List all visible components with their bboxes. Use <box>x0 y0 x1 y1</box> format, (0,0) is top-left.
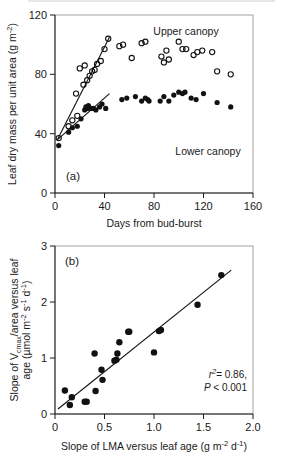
data-point <box>171 93 176 98</box>
data-point <box>164 48 169 53</box>
y-tick-label-0: 0 <box>41 408 47 420</box>
x-tick-label-160: 160 <box>244 200 262 212</box>
data-point <box>103 106 108 111</box>
data-point <box>70 125 75 130</box>
data-point <box>166 57 171 62</box>
data-point <box>218 272 224 278</box>
data-point <box>113 356 119 362</box>
y-axis-title-line2: age (µmol m-2 s-1 d-1) <box>19 280 32 379</box>
data-point <box>124 95 129 100</box>
stat-p-value: P < 0.001 <box>204 382 248 393</box>
data-point <box>126 328 132 334</box>
data-point <box>69 394 75 400</box>
data-point <box>161 94 166 99</box>
data-point <box>129 55 134 60</box>
panel-b-plot: 0 1 2 3 0 0.5 1.0 1.5 2.0 Slope of LMA v… <box>0 232 285 468</box>
regression-line <box>57 94 109 140</box>
data-point <box>78 116 83 121</box>
data-point <box>119 97 124 102</box>
data-point <box>116 339 122 345</box>
x-axis-title: Slope of LMA versus leaf age (g m-2 d-1) <box>61 439 247 452</box>
data-point <box>67 402 73 408</box>
data-point <box>99 101 104 106</box>
data-point <box>66 130 71 135</box>
regression-line <box>57 37 109 139</box>
data-point <box>184 47 189 52</box>
y-axis-title: Leaf dry mass per unit area (g m-2) <box>5 23 18 185</box>
data-point <box>159 54 164 59</box>
data-point <box>75 124 80 129</box>
fit-line-upper-canopy <box>57 37 109 139</box>
data-point <box>114 350 120 356</box>
data-point <box>91 350 97 356</box>
data-point <box>193 97 198 102</box>
scientific-figure: 0 40 80 120 0 40 80 120 160 Days from bu… <box>0 0 285 468</box>
data-points-lower-canopy <box>56 90 233 149</box>
series-label-upper-canopy: Upper canopy <box>153 25 219 37</box>
data-point <box>176 39 181 44</box>
data-point <box>194 302 200 308</box>
x-tick-label-80: 80 <box>148 200 160 212</box>
stat-r-squared: r2= 0.86, <box>209 367 247 380</box>
data-point <box>62 387 68 393</box>
data-point <box>92 388 98 394</box>
data-points-upper-canopy <box>56 36 233 141</box>
y-tick-label-3: 3 <box>41 240 47 252</box>
x-tick-label-0: 0 <box>52 200 58 212</box>
series-label-lower-canopy: Lower canopy <box>175 145 241 157</box>
x-tick-label-2-0: 2.0 <box>245 421 260 433</box>
data-point <box>201 91 206 96</box>
data-point <box>98 58 103 63</box>
data-point <box>228 104 233 109</box>
data-point <box>56 143 61 148</box>
data-point <box>70 118 75 123</box>
x-tick-label-120: 120 <box>194 200 212 212</box>
data-point <box>83 398 89 404</box>
data-point <box>215 69 220 74</box>
data-point <box>215 100 220 105</box>
data-point <box>151 349 157 355</box>
data-point <box>98 367 104 373</box>
x-axis-title: Days from bud-burst <box>106 217 201 229</box>
x-tick-label-1-5: 1.5 <box>196 421 211 433</box>
data-point <box>158 327 164 333</box>
x-tick-label-40: 40 <box>98 200 110 212</box>
data-point <box>166 98 171 103</box>
y-tick-label-0: 0 <box>41 187 47 199</box>
data-point <box>158 98 163 103</box>
panel-a-plot: 0 40 80 120 0 40 80 120 160 Days from bu… <box>0 0 285 232</box>
data-point <box>82 63 87 68</box>
x-tick-label-1-0: 1.0 <box>146 421 161 433</box>
data-point <box>73 91 78 96</box>
data-point <box>182 90 187 95</box>
data-point <box>146 98 151 103</box>
panel-b: 0 1 2 3 0 0.5 1.0 1.5 2.0 Slope of LMA v… <box>0 232 285 468</box>
y-tick-label-1: 1 <box>41 352 47 364</box>
data-point <box>189 95 194 100</box>
data-point <box>200 48 205 53</box>
x-tick-label-0: 0 <box>52 421 58 433</box>
y-tick-label-40: 40 <box>35 128 47 140</box>
data-point <box>228 72 233 77</box>
panel-letter-b: (b) <box>65 255 79 267</box>
data-point <box>210 49 215 54</box>
y-tick-label-120: 120 <box>29 9 47 21</box>
panel-a: 0 40 80 120 0 40 80 120 160 Days from bu… <box>0 0 285 232</box>
plot-frame <box>55 15 253 193</box>
y-tick-label-2: 2 <box>41 296 47 308</box>
data-point <box>133 94 138 99</box>
x-tick-label-0-5: 0.5 <box>97 421 112 433</box>
panel-letter-a: (a) <box>66 170 80 182</box>
data-point <box>77 66 82 71</box>
data-point <box>161 60 166 65</box>
y-tick-label-80: 80 <box>35 68 47 80</box>
fit-line-lower-canopy <box>57 94 109 140</box>
data-point <box>99 377 105 383</box>
